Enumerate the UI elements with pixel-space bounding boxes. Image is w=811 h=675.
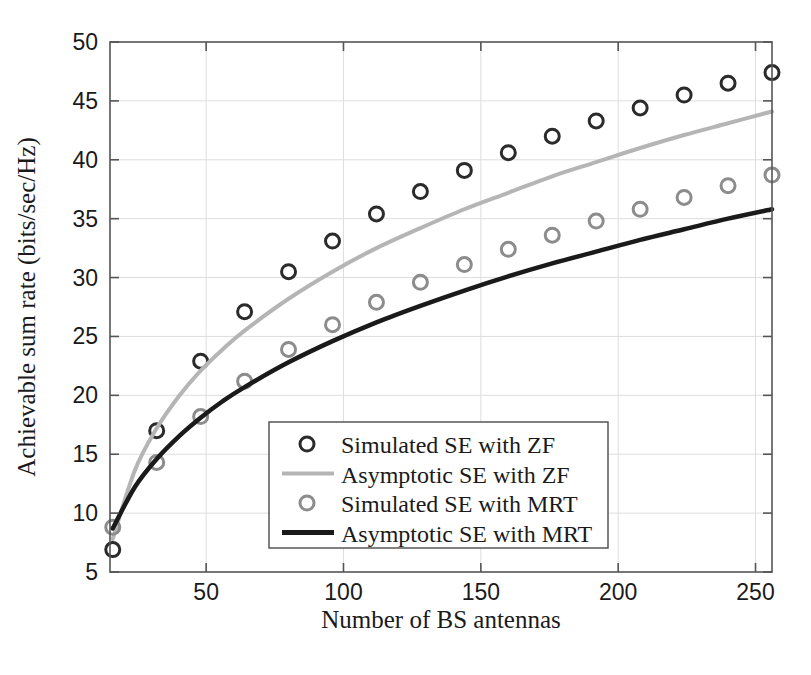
y-tick-label: 10	[72, 500, 98, 526]
x-tick-label: 200	[599, 579, 637, 605]
achievable-sum-rate-chart: 50100150200250 5101520253035404550 Numbe…	[0, 0, 811, 675]
x-axis-title: Number of BS antennas	[321, 606, 561, 633]
legend-entry-label: Simulated SE with MRT	[341, 491, 578, 517]
y-tick-label: 50	[72, 29, 98, 55]
legend: Simulated SE with ZFAsymptotic SE with Z…	[269, 422, 608, 548]
y-tick-label: 35	[72, 206, 98, 232]
y-tick-label: 20	[72, 382, 98, 408]
x-tick-label: 100	[324, 579, 362, 605]
y-tick-label: 15	[72, 441, 98, 467]
y-tick-label: 45	[72, 88, 98, 114]
chart-figure: 50100150200250 5101520253035404550 Numbe…	[0, 0, 811, 675]
x-tick-label: 50	[193, 579, 219, 605]
x-tick-label: 250	[736, 579, 774, 605]
y-tick-label: 25	[72, 323, 98, 349]
legend-entry-label: Asymptotic SE with MRT	[341, 521, 593, 547]
y-axis-title: Achievable sum rate (bits/sec/Hz)	[13, 137, 41, 476]
y-tick-label: 40	[72, 147, 98, 173]
legend-entry-label: Simulated SE with ZF	[341, 432, 555, 458]
x-tick-label: 150	[462, 579, 500, 605]
y-tick-label: 5	[85, 559, 98, 585]
legend-entry-label: Asymptotic SE with ZF	[341, 462, 570, 488]
y-tick-label: 30	[72, 265, 98, 291]
